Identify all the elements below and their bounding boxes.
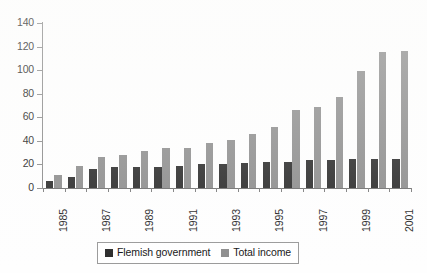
x-axis-tick <box>303 188 304 192</box>
legend-item: Total income <box>221 247 291 258</box>
x-axis-tick-label: 2001 <box>404 209 415 232</box>
bar-total-income-1994 <box>249 134 256 188</box>
legend-item-label: Total income <box>233 247 291 258</box>
y-axis-tick-label-text: 120 <box>2 41 34 52</box>
x-axis-tick-label: 1993 <box>231 209 242 232</box>
x-axis-tick-label: 1989 <box>144 209 155 232</box>
x-axis-tick <box>324 188 325 192</box>
y-axis-tick-label-text: 80 <box>2 88 34 99</box>
x-axis-tick <box>65 188 66 192</box>
x-axis-tick <box>368 188 369 192</box>
bar-total-income-1991 <box>184 148 191 188</box>
bar-total-income-1985 <box>54 175 61 188</box>
x-axis-tick <box>346 188 347 192</box>
bar-flemish-government-1987 <box>89 169 96 188</box>
y-axis-tick-label-text: 140 <box>2 17 34 28</box>
bar-flemish-government-1989 <box>133 167 140 188</box>
bar-total-income-2001 <box>401 51 408 188</box>
x-axis-tick <box>173 188 174 192</box>
x-axis-tick <box>130 188 131 192</box>
bar-total-income-1986 <box>76 166 83 188</box>
bar-flemish-government-1988 <box>111 167 118 188</box>
legend-swatch-icon <box>221 249 229 257</box>
x-axis-line <box>42 188 412 189</box>
x-axis-tick-label: 1987 <box>101 209 112 232</box>
legend-item: Flemish government <box>105 247 210 258</box>
x-axis-tick <box>281 188 282 192</box>
x-axis-tick-label: 1999 <box>361 209 372 232</box>
bar-total-income-1999 <box>357 71 364 188</box>
bar-flemish-government-1991 <box>176 166 183 188</box>
y-axis-tick-label: 120 <box>0 41 34 52</box>
x-axis-tick-label: 1991 <box>188 209 199 232</box>
x-axis-tick <box>389 188 390 192</box>
bar-total-income-1995 <box>271 127 278 188</box>
bar-flemish-government-1993 <box>219 164 226 188</box>
x-axis-tick <box>195 188 196 192</box>
bar-total-income-1988 <box>119 155 126 188</box>
bar-total-income-1997 <box>314 107 321 188</box>
x-axis-tick-label: 1985 <box>58 209 69 232</box>
x-axis-tick <box>43 188 44 192</box>
bar-total-income-1989 <box>141 151 148 188</box>
bar-total-income-2000 <box>379 52 386 188</box>
x-axis-tick-label: 1997 <box>318 209 329 232</box>
y-axis-tick-label-text: 100 <box>2 64 34 75</box>
x-axis-tick <box>108 188 109 192</box>
x-axis-tick <box>216 188 217 192</box>
bar-chart: 020406080100120140 198519871989199119931… <box>0 0 427 273</box>
x-axis-tick <box>238 188 239 192</box>
x-axis-tick <box>86 188 87 192</box>
bar-total-income-1987 <box>98 157 105 188</box>
bar-flemish-government-1995 <box>263 162 270 188</box>
y-axis-tick-label: 0 <box>0 182 34 193</box>
legend-swatch-icon <box>105 249 113 257</box>
y-axis-tick-label: 60 <box>0 111 34 122</box>
bar-flemish-government-1994 <box>241 163 248 188</box>
y-axis-tick-label-text: 0 <box>2 182 34 193</box>
x-axis-tick-label: 1995 <box>274 209 285 232</box>
bar-flemish-government-1996 <box>284 162 291 188</box>
y-axis-tick-label-text: 20 <box>2 158 34 169</box>
y-axis-tick-label: 80 <box>0 88 34 99</box>
chart-legend: Flemish governmentTotal income <box>97 242 299 264</box>
bar-total-income-1996 <box>292 110 299 188</box>
y-axis-tick-label: 140 <box>0 17 34 28</box>
bar-flemish-government-1985 <box>46 181 53 188</box>
x-axis-tick <box>411 188 412 192</box>
y-axis-tick-label: 40 <box>0 135 34 146</box>
bar-total-income-1992 <box>206 143 213 188</box>
plot-area <box>43 23 411 188</box>
y-axis-tick-label: 100 <box>0 64 34 75</box>
bar-total-income-1998 <box>336 97 343 188</box>
legend-item-label: Flemish government <box>117 247 210 258</box>
bar-flemish-government-1990 <box>154 167 161 188</box>
bar-total-income-1990 <box>162 148 169 188</box>
y-axis-tick-label: 20 <box>0 158 34 169</box>
bar-total-income-1993 <box>227 140 234 188</box>
bar-flemish-government-2000 <box>371 159 378 188</box>
bar-flemish-government-1997 <box>306 160 313 188</box>
bar-flemish-government-1999 <box>349 159 356 188</box>
bar-flemish-government-1986 <box>68 177 75 188</box>
x-axis-tick <box>151 188 152 192</box>
bar-flemish-government-2001 <box>392 159 399 188</box>
y-axis-tick-label-text: 60 <box>2 111 34 122</box>
bar-flemish-government-1998 <box>327 160 334 188</box>
x-axis-tick <box>259 188 260 192</box>
bar-flemish-government-1992 <box>198 164 205 188</box>
y-axis-tick-label-text: 40 <box>2 135 34 146</box>
